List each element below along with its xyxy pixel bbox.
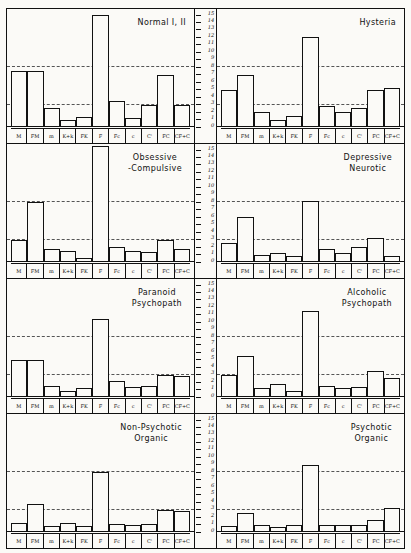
y-tick-label: 13 [208, 430, 214, 435]
x-tick-label-c: c [126, 399, 142, 413]
y-tick-label: 1 [211, 115, 214, 120]
x-tick-label-Fc: Fc [319, 129, 335, 143]
x-tick-label-CF+C: CF+C [175, 399, 190, 413]
x-tick-label-CF+C: CF+C [385, 399, 400, 413]
x-tick-label-FC: FC [368, 399, 384, 413]
y-tick-label: 2 [211, 378, 214, 383]
x-tick-label-F: F [303, 129, 319, 143]
panel-row-3: Paranoid PsychopathMFMmK+kFKFFccC'FCCF+C… [7, 279, 404, 414]
bar-F [302, 465, 318, 532]
bar-C [141, 105, 157, 127]
y-tick-label: 14 [208, 288, 214, 293]
panel-row-4: Non-Psychotic OrganicMFMmK+kFKFFccC'FCCF… [7, 414, 404, 548]
y-tick-label: 13 [208, 295, 214, 300]
y-tick-label: 4 [211, 498, 214, 503]
y-axis: 0123456789101112131415 [194, 414, 217, 548]
x-tick-label-K+k: K+k [270, 399, 286, 413]
y-tick-label: 12 [208, 168, 214, 173]
y-tick-label: 8 [211, 333, 214, 338]
x-tick-label-FM: FM [27, 264, 43, 278]
x-tick-label-C: C' [142, 264, 158, 278]
y-tick-label: 4 [211, 93, 214, 98]
panel-title: Alcoholic Psychopath [342, 287, 392, 309]
y-tick-label: 1 [211, 250, 214, 255]
x-tick-label-FK: FK [286, 534, 302, 548]
bar-FM [27, 504, 43, 532]
x-tick-label-F: F [93, 399, 109, 413]
bar-M [11, 360, 27, 397]
x-tick-label-M: M [221, 129, 237, 143]
x-tick-label-FC: FC [368, 129, 384, 143]
bar-F [92, 15, 108, 127]
x-tick-label-M: M [221, 399, 237, 413]
bar-M [221, 90, 237, 127]
x-tick-label-FC: FC [158, 264, 174, 278]
y-tick-label: 12 [208, 303, 214, 308]
x-tick-label-c: c [336, 399, 352, 413]
panel-alcoholic-psychopath: Alcoholic PsychopathMFMmK+kFKFFccC'FCCF+… [217, 279, 404, 413]
y-tick-label: 7 [211, 475, 214, 480]
panel-obsessive-compulsive: Obsessive -CompulsiveMFMmK+kFKFFccC'FCCF… [7, 144, 194, 278]
x-tick-label-M: M [11, 399, 27, 413]
y-tick-label: 10 [208, 48, 214, 53]
y-tick-label: 9 [211, 325, 214, 330]
y-tick-label: 1 [211, 520, 214, 525]
bar-FM [27, 71, 43, 127]
x-tick-label-c: c [126, 129, 142, 143]
y-tick-label: 6 [211, 78, 214, 83]
y-tick-label: 0 [211, 258, 214, 263]
bar-CF+C [174, 376, 190, 397]
x-tick-label-FC: FC [368, 264, 384, 278]
baseline [7, 531, 194, 532]
figure-frame: Normal I, IIMFMmK+kFKFFccC'FCCF+C0123456… [6, 8, 405, 549]
panel-title: Non-Psychotic Organic [120, 422, 182, 444]
x-tick-label-CF+C: CF+C [175, 534, 190, 548]
bar-FC [157, 510, 173, 532]
panel-normal-i-ii: Normal I, IIMFMmK+kFKFFccC'FCCF+C [7, 9, 194, 143]
x-axis-category-row: MFMmK+kFKFFccC'FCCF+C [11, 398, 190, 413]
bar-Fc [319, 106, 335, 127]
x-tick-label-c: c [126, 534, 142, 548]
y-tick-label: 0 [211, 528, 214, 533]
x-tick-label-K+k: K+k [270, 264, 286, 278]
bar-C [351, 247, 367, 262]
x-tick-label-FM: FM [237, 399, 253, 413]
x-tick-label-CF+C: CF+C [385, 264, 400, 278]
x-tick-label-FK: FK [76, 264, 92, 278]
x-tick-label-FK: FK [286, 264, 302, 278]
x-axis-category-row: MFMmK+kFKFFccC'FCCF+C [221, 263, 400, 278]
x-tick-label-K+k: K+k [60, 399, 76, 413]
y-tick-label: 0 [211, 393, 214, 398]
y-axis-ticks: 0123456789101112131415 [195, 279, 216, 413]
y-axis: 0123456789101112131415 [194, 279, 217, 413]
bar-F [92, 319, 108, 397]
panel-title: Depressive Neurotic [344, 152, 392, 174]
x-tick-label-FK: FK [76, 129, 92, 143]
y-tick-label: 9 [211, 460, 214, 465]
x-tick-label-FM: FM [237, 534, 253, 548]
bar-series [221, 15, 400, 127]
panel-paranoid-psychopath: Paranoid PsychopathMFMmK+kFKFFccC'FCCF+C [7, 279, 194, 413]
y-tick-label: 5 [211, 85, 214, 90]
x-tick-label-m: m [254, 534, 270, 548]
x-axis-category-row: MFMmK+kFKFFccC'FCCF+C [221, 128, 400, 143]
bar-M [11, 240, 27, 262]
x-tick-label-K+k: K+k [60, 534, 76, 548]
x-tick-label-c: c [336, 264, 352, 278]
panel-non-psychotic-organic: Non-Psychotic OrganicMFMmK+kFKFFccC'FCCF… [7, 414, 194, 548]
bar-FM [27, 202, 43, 262]
bar-FC [157, 375, 173, 397]
baseline [217, 126, 404, 127]
bar-Fc [109, 247, 125, 262]
x-tick-label-K+k: K+k [60, 264, 76, 278]
baseline [217, 396, 404, 397]
y-axis-ticks: 0123456789101112131415 [195, 414, 216, 548]
x-tick-label-m: m [254, 399, 270, 413]
x-tick-label-C: C' [352, 399, 368, 413]
y-tick-label: 14 [208, 423, 214, 428]
x-tick-label-FK: FK [76, 534, 92, 548]
x-tick-label-C: C' [352, 534, 368, 548]
bar-M [221, 375, 237, 397]
y-tick-label: 4 [211, 228, 214, 233]
x-tick-label-F: F [303, 534, 319, 548]
